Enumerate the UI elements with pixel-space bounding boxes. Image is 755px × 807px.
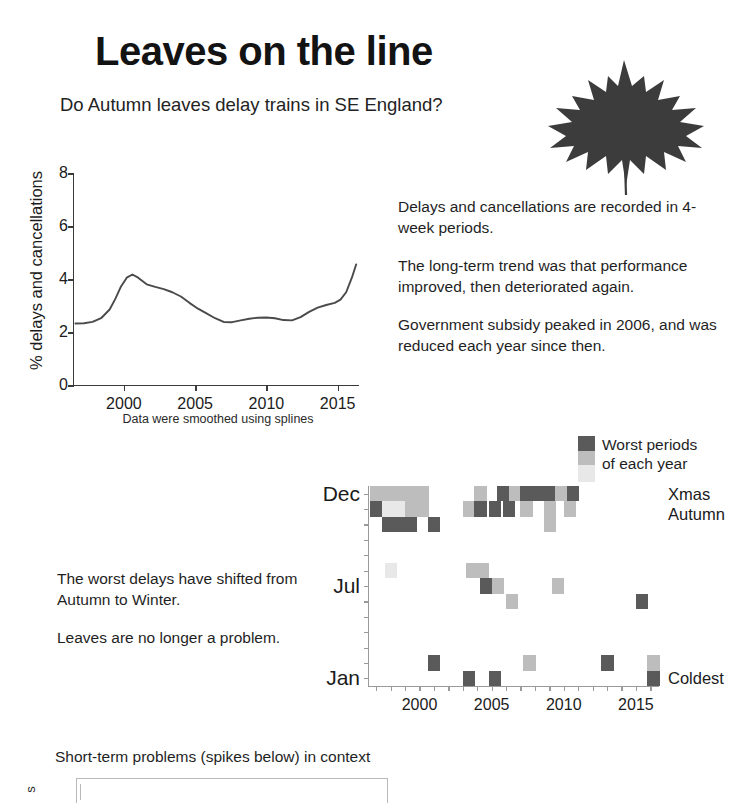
heatmap-cell [474, 486, 486, 501]
heatmap-cell [601, 655, 613, 670]
line-chart-series-path [74, 173, 359, 385]
heatmap-cell [564, 501, 576, 516]
heatmap-x-tick-mark [391, 686, 392, 691]
line-chart-y-tick-mark [68, 226, 74, 228]
line-chart-x-tick-mark [338, 385, 340, 391]
maple-leaf-icon [540, 52, 710, 197]
heatmap-cell [428, 517, 440, 532]
line-chart-x-tick: 2005 [177, 395, 213, 413]
bottom-section-title: Short-term problems (spikes below) in co… [55, 748, 555, 766]
heatmap-cell [463, 671, 475, 686]
heatmap-worst-periods: JanJulDec2000200520102015XmasAutumnColde… [300, 482, 700, 717]
heatmap-y-tick-mark [364, 509, 369, 510]
line-chart-x-tick-mark [266, 385, 268, 391]
heatmap-y-tick-mark [364, 571, 369, 572]
shift-notes-block: The worst delays have shifted from Autum… [57, 568, 347, 648]
shift-note-paragraph-2: Leaves are no longer a problem. [57, 627, 347, 648]
line-chart-y-tick-mark [68, 173, 74, 175]
page-subtitle: Do Autumn leaves delay trains in SE Engl… [60, 93, 560, 117]
heatmap-cell [480, 578, 492, 593]
heatmap-cell [647, 655, 659, 670]
heatmap-cell [405, 517, 417, 532]
heatmap-x-tick-mark [463, 686, 464, 691]
heatmap-cell [370, 486, 382, 501]
heatmap-cell [544, 517, 556, 532]
heatmap-cell [520, 501, 532, 516]
heatmap-x-tick-mark [492, 686, 493, 691]
heatmap-cell [428, 655, 440, 670]
heatmap-cell [506, 594, 518, 609]
heatmap-cell [489, 671, 501, 686]
heatmap-cell [497, 486, 509, 501]
heatmap-y-tick-mark [364, 663, 369, 664]
heatmap-y-tick-mark [364, 540, 369, 541]
heatmap-legend: Worst periods of each year [578, 436, 753, 488]
line-chart-x-tick: 2000 [106, 395, 142, 413]
line-chart-y-tick: 8 [59, 165, 68, 181]
legend-label: Worst periods of each year [602, 435, 752, 473]
heatmap-x-tick-mark [376, 686, 377, 691]
line-chart-delays: % delays and cancellations 0246820002005… [18, 165, 368, 420]
heatmap-cell [466, 563, 478, 578]
heatmap-x-tick-mark [535, 686, 536, 691]
line-chart-y-tick-mark [68, 279, 74, 281]
heatmap-x-tick-mark [636, 686, 637, 691]
heatmap-cell [509, 486, 521, 501]
heatmap-right-label-autumn: Autumn [668, 504, 725, 523]
heatmap-cell [382, 517, 394, 532]
heatmap-x-tick-mark [564, 686, 565, 691]
heatmap-cell [552, 578, 564, 593]
heatmap-x-tick-mark [520, 686, 521, 691]
heatmap-x-tick: 2015 [618, 696, 654, 714]
heatmap-cell [463, 501, 475, 516]
heatmap-x-tick-mark [607, 686, 608, 691]
heatmap-cell [523, 655, 535, 670]
heatmap-y-tick-jan: Jan [326, 666, 360, 690]
heatmap-x-tick-mark [419, 686, 420, 691]
legend-label-line2: of each year [602, 454, 752, 473]
heatmap-right-label-coldest: Coldest [668, 669, 724, 688]
heatmap-cell [555, 486, 567, 501]
heatmap-cell [477, 563, 489, 578]
heatmap-y-tick-mark [364, 648, 369, 649]
line-chart-x-tick-mark [124, 385, 126, 391]
heatmap-cell [520, 486, 532, 501]
heatmap-cell [417, 486, 429, 501]
line-chart-y-tick: 2 [59, 324, 68, 340]
bottom-chart-y-axis-label: s [23, 770, 38, 807]
heatmap-x-tick-mark [448, 686, 449, 691]
heatmap-cell [503, 501, 515, 516]
heatmap-cell [489, 501, 501, 516]
heatmap-cell [394, 501, 406, 516]
heatmap-plot-area: JanJulDec2000200520102015XmasAutumnColde… [368, 486, 659, 687]
line-chart-y-tick-mark [68, 385, 74, 387]
notes-block: Delays and cancellations are recorded in… [398, 196, 718, 356]
heatmap-cell [385, 563, 397, 578]
heatmap-y-tick-mark [364, 494, 369, 495]
heatmap-x-tick: 2010 [546, 696, 582, 714]
heatmap-right-label-xmas: Xmas [668, 484, 710, 503]
line-chart-x-tick: 2015 [320, 395, 356, 413]
heatmap-x-tick: 2005 [474, 696, 510, 714]
line-chart-y-axis-label: % delays and cancellations [27, 168, 46, 373]
heatmap-cell [394, 486, 406, 501]
legend-label-line1: Worst periods [602, 435, 752, 454]
line-chart-y-tick: 0 [59, 377, 68, 393]
bottom-chart-partial: s [18, 776, 418, 802]
line-chart-x-tick: 2010 [249, 395, 285, 413]
note-paragraph-2: The long-term trend was that performance… [398, 255, 718, 297]
heatmap-x-tick-mark [621, 686, 622, 691]
heatmap-x-tick-mark [650, 686, 651, 691]
heatmap-x-tick-mark [593, 686, 594, 691]
line-chart-y-tick-mark [68, 332, 74, 334]
heatmap-cell [492, 578, 504, 593]
note-paragraph-3: Government subsidy peaked in 2006, and w… [398, 314, 718, 356]
heatmap-cell [382, 486, 394, 501]
heatmap-x-tick-mark [506, 686, 507, 691]
heatmap-cell [567, 486, 579, 501]
line-chart-plot-area: 024682000200520102015 [73, 173, 359, 386]
heatmap-cell [532, 486, 544, 501]
heatmap-x-tick-mark [549, 686, 550, 691]
heatmap-cell [405, 501, 417, 516]
line-chart-x-tick-mark [195, 385, 197, 391]
